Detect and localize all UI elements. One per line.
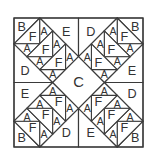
piece-label-a: A (110, 128, 118, 140)
piece-label-e: E (128, 64, 136, 78)
piece-label-a: A (23, 42, 31, 54)
piece-label-f: F (95, 95, 103, 109)
piece-label-c: C (73, 75, 84, 91)
piece-label-b: B (131, 20, 139, 34)
piece-label-f: F (55, 95, 63, 109)
piece-label-a: A (53, 38, 61, 50)
piece-label-a: A (66, 102, 74, 114)
piece-label-f: F (108, 108, 116, 122)
piece-label-d: D (62, 126, 71, 140)
piece-label-a: A (40, 25, 48, 37)
piece-label-e: E (21, 87, 29, 101)
piece-label-a: A (36, 98, 44, 110)
piece-label-a: A (114, 98, 122, 110)
piece-label-a: A (40, 128, 48, 140)
piece-label-a: A (101, 85, 109, 97)
piece-label-a: A (84, 102, 92, 114)
piece-label-a: A (127, 42, 135, 54)
piece-label-a: A (49, 68, 57, 80)
piece-label-f: F (42, 108, 50, 122)
piece-label-f: F (29, 121, 37, 135)
piece-label-a: A (23, 111, 31, 123)
piece-label-a: A (114, 55, 122, 67)
piece-label-b: B (18, 131, 26, 145)
piece-label-a: A (53, 115, 61, 127)
piece-label-a: A (84, 51, 92, 63)
quilt-block-svg: BEDFAAFAAFAABDEFAAFAAFAABDEFAAFAAFAABEDF… (14, 18, 143, 147)
piece-label-a: A (66, 51, 74, 63)
piece-label-a: A (49, 85, 57, 97)
piece-label-a: A (101, 68, 109, 80)
piece-label-a: A (97, 115, 105, 127)
piece-label-d: D (20, 64, 29, 78)
piece-label-a: A (97, 38, 105, 50)
piece-label-d: D (127, 87, 136, 101)
quilt-block-diagram: BEDFAAFAAFAABDEFAAFAAFAABDEFAAFAAFAABEDF… (14, 18, 143, 147)
piece-label-e: E (87, 126, 95, 140)
piece-label-a: A (36, 55, 44, 67)
piece-label-a: A (127, 111, 135, 123)
piece-label-b: B (131, 131, 139, 145)
piece-label-f: F (120, 121, 128, 135)
piece-label-b: B (18, 20, 26, 34)
piece-label-d: D (86, 25, 95, 39)
piece-label-e: E (62, 25, 70, 39)
piece-label-a: A (110, 25, 118, 37)
